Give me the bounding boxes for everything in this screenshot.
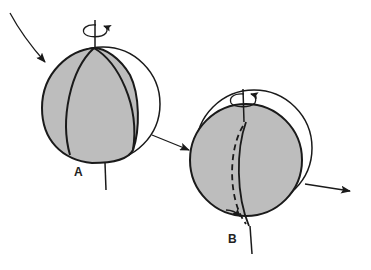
sphere-b-axis-bottom bbox=[250, 226, 252, 254]
incoming-arrow-a bbox=[10, 13, 45, 62]
transition-arrow bbox=[152, 135, 189, 150]
sphere-b-shaded bbox=[190, 104, 302, 216]
diagram-canvas: A B bbox=[0, 0, 371, 270]
sphere-b-label: B bbox=[228, 232, 237, 246]
sphere-a: A bbox=[42, 20, 160, 190]
sphere-b: B bbox=[190, 89, 312, 254]
sphere-a-shaded bbox=[42, 48, 138, 163]
outgoing-arrow-b bbox=[305, 184, 350, 191]
sphere-a-label: A bbox=[74, 165, 83, 179]
sphere-a-axis-bottom bbox=[105, 163, 106, 190]
